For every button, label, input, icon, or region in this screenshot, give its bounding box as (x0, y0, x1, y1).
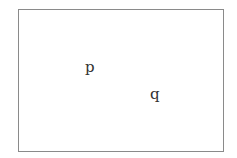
diagram-frame (18, 9, 224, 152)
point-label-p: p (85, 60, 95, 75)
point-label-q: q (150, 87, 160, 102)
